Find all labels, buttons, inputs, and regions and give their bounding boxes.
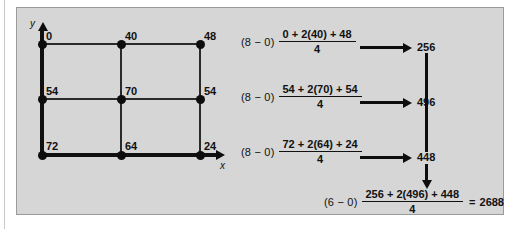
connector-arrowhead-icon-2 [403, 98, 412, 108]
x-axis-label: x [220, 161, 225, 171]
grid-node-label: 48 [204, 31, 216, 42]
fraction-denominator: 4 [317, 97, 323, 110]
connector-arrowhead-icon-3 [403, 153, 412, 163]
equation-row-1: (8 − 0) 0 + 2(40) + 48 4 [241, 28, 356, 55]
grid-node-label: 54 [204, 86, 216, 97]
connector-arrow-shaft-3 [360, 156, 404, 159]
connector-arrow-shaft-2 [360, 101, 404, 104]
equation-prefix: (8 − 0) [241, 91, 275, 103]
equation-fraction: 256 + 2(496) + 448 4 [362, 188, 464, 215]
x-axis-arrowhead-icon [216, 150, 225, 160]
fraction-numerator: 72 + 2(64) + 24 [279, 138, 362, 151]
grid-node-label: 24 [204, 141, 216, 152]
equation-fraction: 0 + 2(40) + 48 4 [279, 28, 356, 55]
equation-prefix: (8 − 0) [241, 146, 275, 158]
equation-fraction: 54 + 2(70) + 54 4 [279, 83, 362, 110]
connector-arrowhead-icon-1 [403, 43, 412, 53]
equation-row-3: (8 − 0) 72 + 2(64) + 24 4 [241, 138, 362, 165]
equation-prefix: (8 − 0) [241, 36, 275, 48]
grid-figure: y x 0 40 48 54 70 [17, 8, 257, 216]
equation-final: (6 − 0) 256 + 2(496) + 448 4 = 2688 [324, 188, 504, 215]
equation-result-final: 2688 [480, 196, 504, 208]
equation-result-3: 448 [417, 151, 435, 163]
grid-node-label: 40 [125, 31, 137, 42]
equation-fraction: 72 + 2(64) + 24 4 [279, 138, 362, 165]
figure-panel: y x 0 40 48 54 70 [16, 7, 504, 215]
y-axis-label: y [30, 19, 35, 29]
grid-node-label: 64 [125, 141, 137, 152]
fraction-numerator: 54 + 2(70) + 54 [279, 83, 362, 96]
fraction-denominator: 4 [314, 42, 320, 55]
equals-sign: = [469, 196, 475, 208]
equation-row-2: (8 − 0) 54 + 2(70) + 54 4 [241, 83, 362, 110]
page-left-rule [4, 0, 5, 229]
fraction-numerator: 256 + 2(496) + 448 [362, 188, 464, 201]
grid-node-label: 72 [46, 141, 58, 152]
y-axis-line [40, 30, 44, 155]
grid-node-label: 70 [125, 86, 137, 97]
equation-prefix: (6 − 0) [324, 196, 358, 208]
fraction-denominator: 4 [409, 202, 415, 215]
figure-screenshot: y x 0 40 48 54 70 [0, 0, 510, 229]
equation-result-1: 256 [417, 41, 435, 53]
fraction-numerator: 0 + 2(40) + 48 [279, 28, 356, 41]
vertical-connector-shaft [425, 53, 428, 152]
fraction-denominator: 4 [317, 152, 323, 165]
connector-arrow-shaft-1 [360, 46, 404, 49]
x-axis-line [42, 153, 218, 157]
grid-node-label: 54 [46, 86, 58, 97]
grid-node-label: 0 [46, 31, 52, 42]
